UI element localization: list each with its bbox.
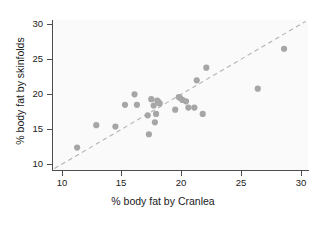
data-point [146,131,152,137]
data-point [194,77,200,83]
data-point [281,46,287,52]
data-point [74,144,80,150]
data-point [191,105,197,111]
x-axis-label: % body fat by Cranlea [0,195,326,207]
data-point [152,119,158,125]
y-axis-label: % body fat by skinfolds [14,11,26,171]
data-point [134,102,140,108]
data-point [148,96,154,102]
data-point [145,112,151,118]
data-points-group [74,46,287,151]
data-point [122,102,128,108]
data-point [172,107,178,113]
data-overlay [0,0,326,225]
data-point [153,111,159,117]
data-point [200,111,206,117]
data-point [93,122,99,128]
data-point [255,86,261,92]
data-point [185,105,191,111]
scatter-plot-figure: 10152025301015202530 % body fat by Cranl… [0,0,326,225]
data-point [131,91,137,97]
data-point [112,123,118,129]
data-point [157,100,163,106]
data-point [203,65,209,71]
data-point [183,98,189,104]
